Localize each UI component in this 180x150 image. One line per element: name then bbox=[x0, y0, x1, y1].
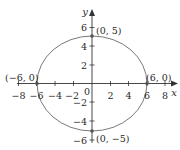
point-left-label: (−6, 0) bbox=[5, 72, 39, 83]
y-tick-label: 6 bbox=[81, 22, 87, 33]
y-axis-arrow-icon bbox=[89, 9, 95, 16]
y-tick-label: −4 bbox=[73, 116, 87, 127]
ellipse-diagram: −8 −6 −4 −2 0 2 4 6 8 x 6 4 2 −2 −4 −6 y… bbox=[0, 0, 180, 150]
origin-label: 0 bbox=[84, 86, 90, 97]
y-tick-label: 4 bbox=[81, 41, 87, 52]
x-tick-label: −6 bbox=[29, 90, 43, 101]
y-tick-label: −6 bbox=[73, 135, 87, 146]
x-axis-label: x bbox=[171, 87, 177, 98]
y-tick-label: −2 bbox=[73, 97, 87, 108]
point-top-marker bbox=[90, 34, 94, 38]
y-axis-label: y bbox=[81, 6, 88, 17]
x-tick-label: −4 bbox=[48, 90, 62, 101]
x-tick-label: 2 bbox=[107, 90, 113, 101]
y-tick-label: 2 bbox=[81, 60, 87, 71]
point-bottom-label: (0, −5) bbox=[96, 133, 130, 144]
x-tick-label: −8 bbox=[11, 90, 25, 101]
x-tick-label: 8 bbox=[162, 90, 168, 101]
point-right-label: (6, 0) bbox=[146, 72, 172, 83]
x-tick-label: 6 bbox=[144, 90, 150, 101]
x-axis-arrow-icon bbox=[171, 81, 178, 87]
x-tick-label: 4 bbox=[125, 90, 131, 101]
point-top-label: (0, 5) bbox=[96, 25, 122, 36]
point-bottom-marker bbox=[90, 129, 94, 133]
